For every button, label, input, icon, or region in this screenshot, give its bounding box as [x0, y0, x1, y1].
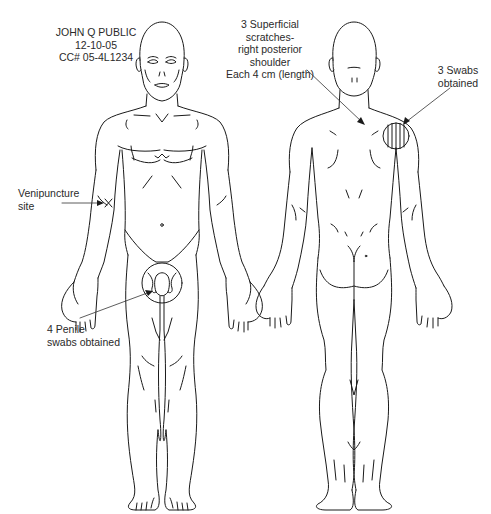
patient-info: JOHN Q PUBLIC 12-10-05 CC# 05-4L1234	[48, 26, 144, 64]
case-number: CC# 05-4L1234	[48, 51, 144, 64]
venipuncture-x-icon	[105, 199, 112, 207]
patient-date: 12-10-05	[48, 39, 144, 52]
venipuncture-label: Venipuncture site	[18, 187, 79, 212]
patient-name: JOHN Q PUBLIC	[48, 26, 144, 39]
scratches-label: 3 Superficial scratches- right posterior…	[210, 18, 330, 81]
front-figure	[62, 22, 263, 510]
shoulder-swab-marker	[383, 123, 409, 149]
penile-swab-label: 4 Penile swabs obtained	[47, 323, 120, 348]
arrowhead-venipuncture-icon	[97, 200, 104, 206]
back-figure	[256, 22, 452, 510]
penile-swab-marker	[142, 263, 182, 303]
shoulder-swab-label: 3 Swabs obtained	[430, 64, 486, 89]
arrowheads	[97, 117, 410, 296]
